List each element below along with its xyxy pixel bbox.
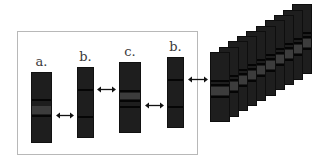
- stacked-gel-strip: [210, 52, 230, 122]
- dark-band: [211, 84, 229, 86]
- dark-band: [211, 96, 229, 98]
- gray-band: [211, 87, 229, 95]
- dark-band: [211, 80, 229, 82]
- strip-stack: [0, 0, 321, 164]
